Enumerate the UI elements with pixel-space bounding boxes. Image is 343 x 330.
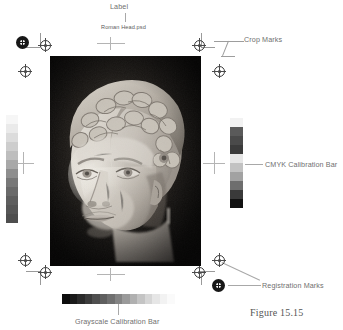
figure-page: Label Roman Head.psd Crop Marks CMYK Cal… (0, 0, 343, 330)
cmyk-swatch (230, 154, 243, 163)
printed-page-artboard (14, 33, 225, 285)
registration-target-mark-top-right (194, 40, 205, 51)
cmyk-swatch (230, 127, 243, 136)
registration-target-mark-left-upper (20, 66, 31, 77)
grayscale-vertical-swatch (6, 160, 18, 169)
figure-caption: Figure 15.15 (250, 307, 304, 318)
annotation-registration-leader-upper (222, 262, 260, 281)
grayscale-horizontal-swatch (85, 294, 93, 304)
grayscale-vertical-swatch (6, 196, 18, 205)
grayscale-horizontal-swatch (137, 294, 145, 304)
cmyk-swatch (230, 145, 243, 154)
grayscale-vertical-swatch (6, 124, 18, 133)
cmyk-swatch (230, 181, 243, 190)
grayscale-horizontal-swatch (115, 294, 123, 304)
registration-target-mark-top-left (40, 40, 51, 51)
grayscale-horizontal-swatch (92, 294, 100, 304)
grayscale-vertical-swatch (6, 178, 18, 187)
annotation-registration-marks-text: Registration Marks (262, 281, 324, 290)
grayscale-horizontal-swatch (160, 294, 168, 304)
registration-target-mark-bottom-right (194, 267, 205, 278)
grayscale-horizontal-swatch (100, 294, 108, 304)
grayscale-vertical-swatch (6, 169, 18, 178)
grayscale-vertical-swatch (6, 214, 18, 223)
cmyk-calibration-bar (230, 118, 243, 208)
registration-target-mark-right-lower (214, 255, 225, 266)
registration-solid-mark-bottom-right (212, 279, 225, 292)
cmyk-swatch (230, 163, 243, 172)
page-label-filename: Roman Head.psd (101, 24, 146, 30)
annotation-cmyk-bar-leader (245, 164, 263, 165)
grayscale-horizontal-swatch (130, 294, 138, 304)
grayscale-horizontal-swatch (77, 294, 85, 304)
grayscale-vertical-swatch (6, 115, 18, 124)
grayscale-vertical-swatch (6, 142, 18, 151)
grayscale-horizontal-swatch (145, 294, 153, 304)
annotation-cmyk-bar-text: CMYK Calibration Bar (265, 160, 337, 169)
registration-target-mark-left-lower (20, 255, 31, 266)
cmyk-swatch (230, 172, 243, 181)
registration-target-mark-right-upper (214, 66, 225, 77)
cmyk-swatch (230, 199, 243, 208)
grayscale-horizontal-swatch (62, 294, 70, 304)
annotation-crop-marks-text: Crop Marks (244, 35, 282, 44)
annotation-label-text: Label (110, 2, 128, 11)
registration-target-mark-bottom-left (40, 267, 51, 278)
cmyk-swatch (230, 118, 243, 127)
grayscale-calibration-bar-horizontal (62, 294, 175, 304)
photo-vignette (50, 56, 201, 266)
grayscale-vertical-swatch (6, 205, 18, 214)
grayscale-horizontal-swatch (152, 294, 160, 304)
cmyk-swatch (230, 190, 243, 199)
grayscale-vertical-swatch (6, 151, 18, 160)
grayscale-horizontal-swatch (167, 294, 175, 304)
grayscale-horizontal-swatch (70, 294, 78, 304)
grayscale-vertical-swatch (6, 187, 18, 196)
annotation-registration-leader-lower (228, 285, 261, 286)
grayscale-horizontal-swatch (107, 294, 115, 304)
annotation-label-leader (125, 13, 126, 22)
annotation-grayscale-bar-text: Grayscale Calibration Bar (75, 317, 159, 326)
grayscale-vertical-swatch (6, 133, 18, 142)
grayscale-calibration-bar-vertical (6, 115, 18, 223)
registration-solid-mark-top-left (16, 36, 29, 49)
photograph-roman-head (50, 56, 201, 266)
cmyk-swatch (230, 136, 243, 145)
grayscale-horizontal-swatch (122, 294, 130, 304)
annotation-grayscale-bar-leader (118, 304, 119, 315)
